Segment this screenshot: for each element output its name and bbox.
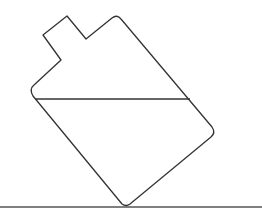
- container-outline: [31, 16, 214, 206]
- diagram-canvas: [0, 0, 262, 220]
